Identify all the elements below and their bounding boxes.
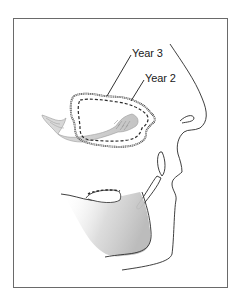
face-profile-illustration [0,0,246,304]
upper-incisor [158,152,165,176]
year3-label: Year 3 [132,48,163,59]
year2-leader-line [131,80,144,101]
mandible-shading [61,190,151,257]
year3-leader-line [107,55,131,96]
label-leader-lines [107,55,144,101]
year2-label: Year 2 [145,73,176,84]
maxillary-bone [42,114,138,142]
